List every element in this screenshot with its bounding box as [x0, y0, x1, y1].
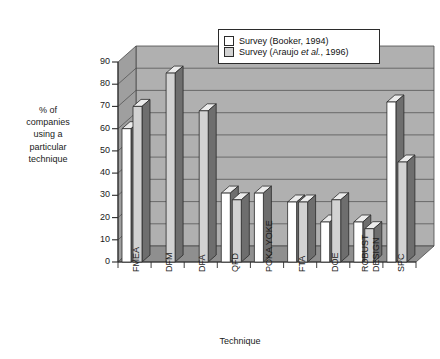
- y-tick-80: 80: [84, 78, 110, 88]
- bar-fta-araujo: [299, 195, 316, 262]
- chart-figure: % of companies using a particular techni…: [0, 0, 440, 359]
- x-label-doe: DOE: [330, 252, 340, 272]
- y-tick-10: 10: [84, 234, 110, 244]
- x-label-dfa: DFA: [197, 254, 207, 272]
- y-tick-30: 30: [84, 189, 110, 199]
- x-label-fmea: FMEA: [131, 247, 141, 272]
- x-label-design: DESIGN: [371, 237, 381, 272]
- y-tick-50: 50: [84, 145, 110, 155]
- legend-swatch-booker-icon: [224, 36, 234, 46]
- y-tick-90: 90: [84, 56, 110, 66]
- x-label-robust: ROBUST: [360, 234, 370, 272]
- bar-spc-araujo: [398, 155, 415, 262]
- legend-swatch-araujo-icon: [224, 47, 234, 57]
- y-tick-0: 0: [84, 256, 110, 266]
- legend-item-booker: Survey (Booker, 1994): [224, 36, 374, 46]
- bar-fmea-araujo: [133, 99, 150, 262]
- legend-araujo-suffix: , 1996): [321, 47, 349, 57]
- y-tick-60: 60: [84, 123, 110, 133]
- x-label-fta: FTA: [297, 256, 307, 272]
- legend-araujo-italic: et al.: [301, 47, 321, 57]
- chart-legend: Survey (Booker, 1994) Survey (Araujo et …: [218, 29, 380, 64]
- x-label-qfd: QFD: [230, 253, 240, 272]
- x-label-spc: SPC: [396, 253, 406, 272]
- legend-araujo-prefix: Survey (Araujo: [239, 47, 301, 57]
- bar-qfd-araujo: [232, 193, 249, 262]
- bar-dfa-araujo: [199, 104, 216, 262]
- y-tick-70: 70: [84, 100, 110, 110]
- bar-dfm-araujo: [166, 66, 183, 262]
- y-tick-20: 20: [84, 212, 110, 222]
- legend-label-booker: Survey (Booker, 1994): [239, 36, 329, 46]
- legend-item-araujo: Survey (Araujo et al., 1996): [224, 47, 374, 57]
- x-label-poka-yoke: POKA YOKE: [264, 220, 274, 272]
- x-axis-title: Technique: [160, 336, 320, 346]
- legend-label-araujo: Survey (Araujo et al., 1996): [239, 47, 349, 57]
- x-label-dfm: DFM: [164, 253, 174, 273]
- y-tick-40: 40: [84, 167, 110, 177]
